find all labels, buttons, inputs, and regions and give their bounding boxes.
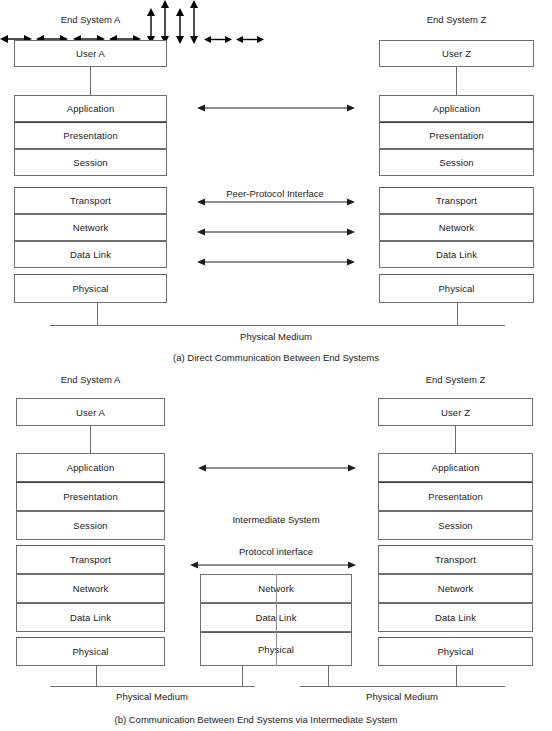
part-b-left-layer-presentation: Presentation (16, 482, 165, 511)
part-a-left-layer-application: Application (14, 95, 167, 122)
part-a-right-user-connector (456, 67, 457, 96)
part-b-left-layer-application: Application (16, 453, 165, 482)
part-a-right-layer-transport: Transport (379, 187, 534, 214)
part-a-arrow-network (197, 227, 355, 237)
part-a-right-layer-application: Application (379, 95, 534, 122)
part-b-caption: (b) Communication Between End Systems vi… (36, 714, 476, 725)
part-a-left-layer-data-link: Data Link (14, 241, 167, 268)
part-a-arrow-data-link (197, 257, 355, 267)
part-a-left-layer-transport: Transport (14, 187, 167, 214)
part-a-right-layer-data-link: Data Link (379, 241, 534, 268)
part-b-physical-medium-label-left: Physical Medium (72, 691, 232, 702)
part-b-arrow-internal-right-lower (189, 0, 199, 44)
part-a-left-user-connector (90, 67, 91, 96)
part-b-physical-medium-line-right (300, 686, 505, 687)
part-a-right-system-label: End System Z (379, 14, 534, 25)
part-b-intermediate-right-medium-connector (328, 666, 329, 686)
part-b-left-user-box: User A (16, 398, 165, 426)
part-b-left-layer-session: Session (16, 511, 165, 540)
part-b-right-user-connector (455, 426, 456, 454)
part-a-left-layer-session: Session (14, 149, 167, 176)
part-a-left-medium-connector (97, 303, 98, 325)
part-b-arrow-internal-right-upper (175, 8, 185, 44)
part-a-caption: (a) Direct Communication Between End Sys… (56, 352, 496, 363)
part-b-protocol-interface-label: Protocol interface (196, 546, 356, 557)
part-a-right-layer-presentation: Presentation (379, 122, 534, 149)
part-a-arrow-transport (197, 197, 355, 207)
part-a-right-medium-connector (457, 303, 458, 325)
part-b-left-system-label: End System A (16, 374, 165, 385)
part-a-left-layer-network: Network (14, 214, 167, 241)
part-b-intermediate-center-guide (276, 574, 277, 666)
part-a-left-system-label: End System A (14, 14, 167, 25)
part-b-right-layer-data-link: Data Link (378, 603, 533, 632)
part-b-intermediate-system-label: Intermediate System (196, 514, 356, 525)
part-b-right-layer-session: Session (378, 511, 533, 540)
part-b-right-user-box: User Z (378, 398, 533, 426)
part-b-left-layer-data-link: Data Link (16, 603, 165, 632)
part-b-arrow-is-data-link-relay (236, 35, 264, 44)
part-b-left-layer-transport: Transport (16, 545, 165, 574)
part-b-left-layer-network: Network (16, 574, 165, 603)
part-b-arrow-protocol-interface (190, 560, 356, 570)
part-a-left-user-box: User A (14, 40, 167, 67)
part-b-arrow-is-network-relay (204, 35, 232, 44)
part-b-physical-medium-label-right: Physical Medium (322, 691, 482, 702)
part-b-right-layer-application: Application (378, 453, 533, 482)
part-b-right-medium-connector (456, 666, 457, 686)
part-b-left-medium-connector (96, 666, 97, 686)
osi-layer-diagram: End System A End System Z User A User Z … (0, 0, 552, 731)
part-b-arrow-application (198, 463, 356, 473)
part-b-right-layer-presentation: Presentation (378, 482, 533, 511)
part-b-right-system-label: End System Z (378, 374, 533, 385)
part-a-right-layer-session: Session (379, 149, 534, 176)
part-a-left-layer-physical: Physical (14, 274, 167, 303)
part-b-left-user-connector (90, 426, 91, 454)
part-a-right-layer-network: Network (379, 214, 534, 241)
part-b-right-layer-network: Network (378, 574, 533, 603)
part-b-intermediate-left-medium-connector (242, 666, 243, 686)
part-b-right-layer-transport: Transport (378, 545, 533, 574)
part-a-physical-medium-line (50, 325, 505, 326)
part-a-right-layer-physical: Physical (379, 274, 534, 303)
part-b-left-layer-physical: Physical (16, 637, 165, 666)
part-a-physical-medium-label: Physical Medium (196, 331, 356, 342)
part-a-arrow-application (197, 103, 355, 113)
part-a-right-user-box: User Z (379, 40, 534, 67)
part-b-physical-medium-line-left (50, 686, 255, 687)
part-b-right-layer-physical: Physical (378, 637, 533, 666)
part-a-left-layer-presentation: Presentation (14, 122, 167, 149)
